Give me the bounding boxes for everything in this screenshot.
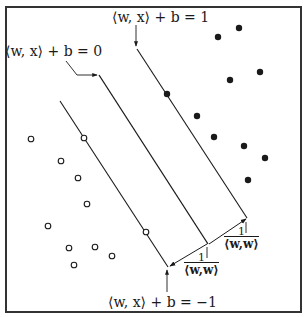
margin-line-plus-one xyxy=(137,49,247,218)
positive-points xyxy=(164,25,268,183)
distance-numerator: 1 xyxy=(224,226,259,236)
label-hyperplane: ⟨w, x⟩ + b = 0 xyxy=(5,44,102,58)
label-margin-plus-one: ⟨w, x⟩ + b = 1 xyxy=(112,10,209,24)
distance-label-upper: 1 ⟨w,w⟩ xyxy=(224,226,259,250)
distance-label-lower: 1 ⟨w,w⟩ xyxy=(184,252,219,276)
distance-denominator: ⟨w,w⟩ xyxy=(184,262,219,276)
pointer-hyperplane xyxy=(66,61,97,75)
distance-denominator: ⟨w,w⟩ xyxy=(224,236,259,250)
negative-points xyxy=(28,135,149,268)
hyperplane-line xyxy=(99,75,208,244)
distance-numerator: 1 xyxy=(184,252,219,262)
margin-line-minus-one xyxy=(60,101,168,267)
label-margin-minus-one: ⟨w, x⟩ + b = −1 xyxy=(108,295,217,309)
